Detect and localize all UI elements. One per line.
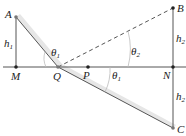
segment-aq [16,17,58,67]
label-theta1-lower: θ1 [112,69,121,83]
label-h2-upper: h2 [176,32,186,46]
label-h1: h1 [4,37,13,51]
label-theta1-upper: θ1 [51,46,60,60]
shaded-band-aq [16,14,62,67]
reflection-diagram: A B C M N P Q h1 h2 h2 θ1 θ2 θ1 [0,0,186,136]
label-q: Q [53,70,61,82]
point-b [171,6,175,10]
segment-qb-dashed [58,8,173,67]
point-n [171,65,175,69]
label-theta2: θ2 [131,45,140,59]
angle-arc-theta1-upper [44,52,46,67]
point-q [56,65,60,69]
point-c [171,126,175,130]
point-m [14,65,18,69]
point-a [14,15,18,19]
label-p: P [82,69,90,81]
label-n: N [162,69,171,81]
label-m: M [10,70,21,82]
angle-arc-theta2 [128,31,130,67]
label-h2-lower: h2 [176,90,186,104]
label-c: C [177,123,185,135]
label-b: B [177,2,184,14]
label-a: A [4,8,12,20]
